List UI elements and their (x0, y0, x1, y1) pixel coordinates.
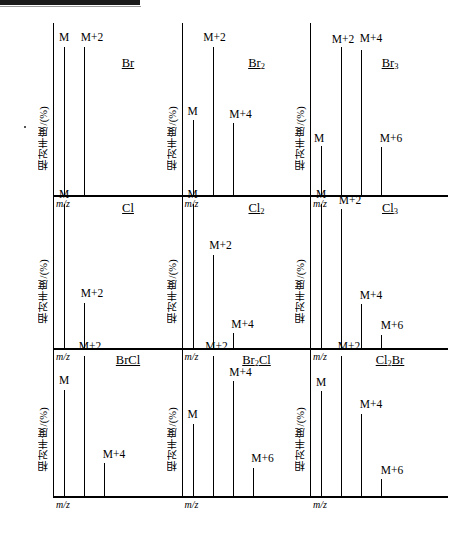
peak-label: M+2 (79, 341, 101, 353)
peak-label: M+2 (338, 341, 360, 353)
peak-label: M+6 (380, 133, 402, 145)
peak-label: M (187, 106, 197, 118)
x-axis-line (53, 496, 182, 497)
peak-label: M+2 (205, 341, 227, 353)
peak-label: M (187, 409, 197, 421)
peak-label: M (59, 32, 69, 44)
peak-label: M (316, 189, 326, 201)
species-label: Br3 (382, 57, 399, 73)
y-axis-caption: 相对丰度/(%) (295, 259, 306, 323)
peak-bar (361, 414, 362, 498)
peak-bar (341, 209, 342, 349)
peak-label: M+2 (81, 32, 103, 44)
y-axis-caption: 相对丰度/(%) (167, 106, 178, 170)
peak-bar (64, 390, 65, 498)
y-axis-line (182, 180, 183, 350)
peak-label: M+2 (339, 195, 361, 207)
peak-label: M+6 (381, 465, 403, 477)
peak-label: M+4 (360, 399, 382, 411)
y-axis-caption: 相对丰度/(%) (167, 259, 178, 323)
peak-bar (84, 356, 85, 498)
peak-label: M+4 (231, 319, 253, 331)
y-axis-line (182, 23, 183, 197)
peak-label: M+2 (209, 240, 231, 252)
y-axis-line (53, 332, 54, 498)
peak-bar (213, 47, 214, 197)
peak-bar (233, 381, 234, 497)
peak-bar (381, 479, 382, 497)
peak-label: M+2 (81, 288, 103, 300)
peak-bar (321, 391, 322, 498)
species-label: Br (122, 57, 135, 70)
y-axis-line (310, 180, 311, 350)
y-axis-caption: 相对丰度/(%) (295, 407, 306, 471)
y-axis-line (53, 180, 54, 350)
stray-mark (24, 126, 26, 128)
peak-label: M+4 (229, 109, 251, 121)
peak-bar (193, 424, 194, 498)
species-label: Br2 (248, 57, 265, 73)
y-axis-caption: 相对丰度/(%) (295, 106, 306, 170)
figure-canvas: MM+2Brm/z相对丰度/(%)MM+2M+4Br2m/z相对丰度/(%)MM… (0, 0, 469, 541)
peak-bar (253, 468, 254, 498)
peak-label: M+6 (381, 320, 403, 332)
top-black-bar (0, 0, 140, 5)
peak-bar (64, 47, 65, 197)
spectrum-panel-cl1: MM+2Clm/z相对丰度/(%) (53, 180, 182, 350)
peak-label: M+2 (332, 34, 354, 46)
peak-label: M+4 (360, 33, 382, 45)
mz-axis-label: m/z (185, 500, 199, 510)
peak-label: M (59, 375, 69, 387)
spectrum-panel-cl3: MM+2M+4M+6Cl3m/z相对丰度/(%) (310, 180, 448, 350)
spectrum-panel-br1: MM+2Brm/z相对丰度/(%) (53, 23, 182, 197)
x-axis-line (310, 496, 448, 497)
peak-label: M (316, 377, 326, 389)
species-label: Cl3 (382, 202, 398, 218)
species-label: Cl (122, 202, 134, 215)
peak-bar (104, 463, 105, 497)
peak-bar (341, 356, 342, 498)
species-label: BrCl (116, 354, 140, 367)
peak-label: M (314, 133, 324, 145)
species-label: Cl2Br (376, 354, 405, 370)
y-axis-caption: 相对丰度/(%) (167, 407, 178, 471)
top-gray-line (0, 6, 141, 7)
y-axis-caption: 相对丰度/(%) (38, 106, 49, 170)
peak-bar (213, 356, 214, 498)
spectrum-panel-br2cl: MM+2M+4M+6Br2Clm/z相对丰度/(%) (182, 332, 311, 498)
peak-label: M (187, 189, 197, 201)
peak-bar (341, 47, 342, 197)
spectrum-panel-br3: MM+2M+4M+6Br3m/z相对丰度/(%) (310, 23, 448, 197)
peak-bar (361, 50, 362, 197)
y-axis-caption: 相对丰度/(%) (38, 407, 49, 471)
spectrum-panel-cl2: MM+2M+4Cl2m/z相对丰度/(%) (182, 180, 311, 350)
y-axis-line (310, 23, 311, 197)
species-label: Br2Cl (242, 354, 271, 370)
peak-label: M+2 (203, 32, 225, 44)
y-axis-line (53, 23, 54, 197)
spectrum-panel-brcl: MM+2M+4BrClm/z相对丰度/(%) (53, 332, 182, 498)
peak-bar (84, 47, 85, 197)
peak-label: M+6 (251, 453, 273, 465)
peak-label: M (59, 189, 69, 201)
y-axis-line (182, 332, 183, 498)
mz-axis-label: m/z (313, 500, 327, 510)
peak-bar (64, 204, 65, 350)
peak-bar (193, 204, 194, 350)
peak-label: M+4 (103, 449, 125, 461)
peak-label: M+4 (360, 290, 382, 302)
mz-axis-label: m/z (56, 500, 70, 510)
spectrum-panel-br2: MM+2M+4Br2m/z相对丰度/(%) (182, 23, 311, 197)
species-label: Cl2 (248, 202, 264, 218)
peak-bar (321, 204, 322, 350)
y-axis-line (310, 332, 311, 498)
y-axis-caption: 相对丰度/(%) (38, 259, 49, 323)
spectrum-panel-cl2br: MM+2M+4M+6Cl2Brm/z相对丰度/(%) (310, 332, 448, 498)
x-axis-line (182, 496, 311, 497)
